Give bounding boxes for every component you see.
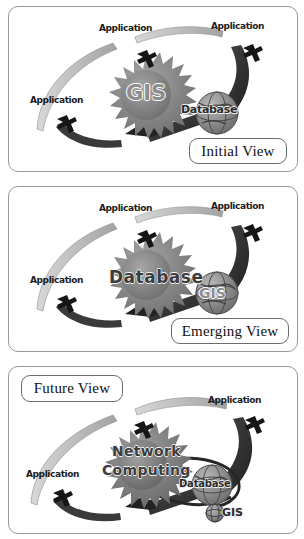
globe-database-label: Database: [179, 478, 231, 489]
starburst-network-label-line1: Network: [112, 443, 181, 459]
application-label-top-right: Application: [211, 201, 264, 211]
panel-emerging-view: Application Application Application Data…: [8, 186, 298, 352]
starburst-gis-label: GIS: [126, 81, 166, 105]
application-label-left: Application: [30, 275, 83, 285]
application-label-top-right: Application: [208, 395, 261, 405]
figure-sheet: Application Application Application GIS …: [0, 0, 304, 539]
panel-caption-future-view: Future View: [21, 375, 123, 402]
arrow-dark-tail: [56, 303, 122, 328]
globe-database-label: Database: [181, 103, 237, 116]
arrow-light-left: [37, 223, 117, 311]
globe-gis-small-label: GIS: [222, 506, 243, 519]
application-label-top-left: Application: [99, 23, 152, 33]
application-label-top-right: Application: [211, 21, 264, 31]
panel-future-view: Application Application Network Computin…: [8, 366, 298, 534]
globe-gis-label: GIS: [199, 285, 226, 301]
panel-caption-emerging-view: Emerging View: [171, 318, 289, 344]
application-label-left: Application: [26, 469, 79, 479]
panel-initial-view: Application Application Application GIS …: [8, 6, 298, 172]
panel-caption-initial-view: Initial View: [189, 138, 287, 164]
starburst-network-label-line2: Computing: [102, 462, 191, 478]
starburst-database-label: Database: [109, 267, 203, 287]
application-label-left: Application: [30, 95, 83, 105]
arrow-light-left: [31, 415, 117, 505]
arrow-dark-tail: [56, 123, 122, 148]
arrow-light-left: [37, 43, 117, 131]
application-label-top-left: Application: [99, 203, 152, 213]
